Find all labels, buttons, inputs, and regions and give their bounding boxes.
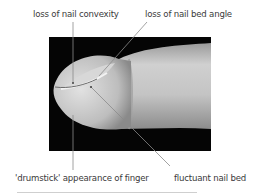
leader-lines (0, 0, 253, 194)
anchor-dot-fluctuant-nail-bed (90, 86, 92, 88)
leader-line-nail-bed-angle (99, 22, 147, 76)
anchor-dot-nail-convexity (72, 82, 74, 84)
leader-line-fluctuant-nail-bed (91, 87, 170, 166)
caption-divider (17, 192, 197, 193)
label-fluctuant-nail-bed: fluctuant nail bed (174, 173, 246, 183)
label-drumstick-appearance: 'drumstick' appearance of finger (15, 173, 149, 183)
